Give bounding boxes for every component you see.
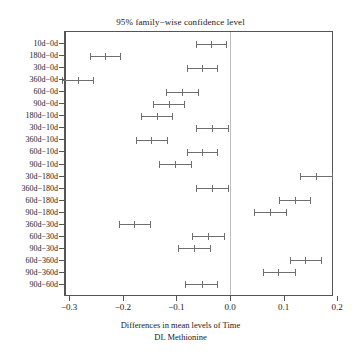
interval-mean-marker: [194, 245, 195, 252]
interval-upper-cap: [93, 77, 94, 84]
y-axis-label: 60d−10d: [0, 147, 58, 156]
interval-upper-cap: [332, 173, 333, 180]
interval-upper-cap: [167, 137, 168, 144]
interval-lower-cap: [90, 53, 91, 60]
x-axis-tick: [176, 296, 177, 301]
interval-lower-cap: [192, 233, 193, 240]
y-axis-tick: [59, 176, 64, 177]
y-axis-tick: [59, 115, 64, 116]
y-axis-tick: [59, 272, 64, 273]
y-axis-tick: [59, 139, 64, 140]
interval-mean-marker: [295, 197, 296, 204]
confidence-interval-row: [66, 184, 332, 193]
interval-upper-cap: [226, 41, 227, 48]
interval-upper-cap: [172, 113, 173, 120]
interval-upper-cap: [228, 185, 229, 192]
y-axis-label: 30d−180d: [0, 171, 58, 180]
confidence-interval-row: [66, 64, 332, 73]
interval-mean-marker: [202, 65, 203, 72]
y-axis-tick: [59, 151, 64, 152]
interval-lower-cap: [178, 245, 179, 252]
y-axis-tick: [59, 260, 64, 261]
y-axis-tick: [59, 91, 64, 92]
x-axis-tick-label: 0.1: [264, 302, 304, 312]
y-axis-label: 60d−360d: [0, 255, 58, 264]
y-axis-label: 90d−10d: [0, 159, 58, 168]
interval-mean-marker: [134, 221, 135, 228]
y-axis-tick: [59, 284, 64, 285]
interval-upper-cap: [198, 89, 199, 96]
interval-mean-marker: [212, 185, 213, 192]
y-axis-label: 90d−180d: [0, 207, 58, 216]
y-axis-label: 60d−180d: [0, 195, 58, 204]
y-axis-tick: [59, 212, 64, 213]
y-axis-tick: [59, 55, 64, 56]
x-axis-tick: [337, 296, 338, 301]
interval-mean-marker: [270, 209, 271, 216]
y-axis-label: 30d−10d: [0, 123, 58, 132]
chart-page: 95% family−wise confidence level 10d−0d1…: [0, 0, 361, 364]
confidence-interval-row: [66, 136, 332, 145]
interval-lower-cap: [166, 89, 167, 96]
interval-lower-cap: [196, 125, 197, 132]
interval-lower-cap: [185, 281, 186, 288]
interval-lower-cap: [196, 41, 197, 48]
y-axis-label: 90d−60d: [0, 279, 58, 288]
x-axis-caption-line1: Differences in mean levels of Time: [0, 320, 361, 330]
confidence-interval-row: [66, 88, 332, 97]
interval-lower-cap: [263, 269, 264, 276]
x-axis-tick-label: −0.3: [49, 302, 89, 312]
confidence-interval-row: [66, 172, 332, 181]
y-axis-label: 10d−0d: [0, 39, 58, 48]
confidence-interval-row: [66, 124, 332, 133]
y-axis-label: 90d−0d: [0, 99, 58, 108]
x-axis-tick-label: −0.1: [156, 302, 196, 312]
x-axis-tick-label: 0.2: [317, 302, 357, 312]
interval-upper-cap: [228, 125, 229, 132]
x-axis-tick: [230, 296, 231, 301]
interval-mean-marker: [182, 89, 183, 96]
y-axis-tick: [59, 79, 64, 80]
y-axis-label: 360d−10d: [0, 135, 58, 144]
confidence-interval-row: [66, 100, 332, 109]
interval-mean-marker: [175, 161, 176, 168]
confidence-interval-row: [66, 40, 332, 49]
interval-upper-cap: [217, 149, 218, 156]
y-axis-tick: [59, 236, 64, 237]
interval-lower-cap: [159, 161, 160, 168]
interval-upper-cap: [286, 209, 287, 216]
interval-lower-cap: [254, 209, 255, 216]
interval-mean-marker: [305, 257, 306, 264]
interval-lower-cap: [153, 101, 154, 108]
y-axis-tick: [59, 127, 64, 128]
y-axis-tick: [59, 164, 64, 165]
y-axis-label: 180d−10d: [0, 111, 58, 120]
interval-upper-cap: [310, 197, 311, 204]
interval-lower-cap: [196, 185, 197, 192]
confidence-interval-row: [66, 232, 332, 241]
confidence-interval-row: [66, 244, 332, 253]
y-axis-tick: [59, 103, 64, 104]
interval-lower-cap: [187, 65, 188, 72]
confidence-interval-row: [66, 112, 332, 121]
interval-mean-marker: [212, 125, 213, 132]
confidence-interval-row: [66, 220, 332, 229]
interval-upper-cap: [191, 161, 192, 168]
x-axis-tick: [284, 296, 285, 301]
y-axis-label: 90d−30d: [0, 243, 58, 252]
confidence-interval-row: [66, 160, 332, 169]
y-axis-tick: [59, 67, 64, 68]
y-axis-tick: [59, 248, 64, 249]
interval-mean-marker: [202, 281, 203, 288]
interval-lower-cap: [141, 113, 142, 120]
x-axis-tick: [69, 296, 70, 301]
interval-upper-cap: [120, 53, 121, 60]
interval-mean-marker: [202, 149, 203, 156]
confidence-interval-row: [66, 196, 332, 205]
interval-mean-marker: [208, 233, 209, 240]
interval-mean-marker: [105, 53, 106, 60]
interval-upper-cap: [210, 245, 211, 252]
interval-upper-cap: [184, 101, 185, 108]
confidence-interval-row: [66, 280, 332, 289]
x-axis-tick-label: −0.2: [103, 302, 143, 312]
